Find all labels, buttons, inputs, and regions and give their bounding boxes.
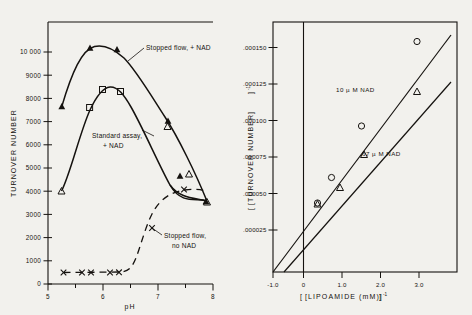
left-y-axis-title: TURNOVER NUMBER <box>10 109 17 197</box>
x-tick-label: 2.0 <box>376 281 385 288</box>
series-standard-assay-line <box>62 87 207 201</box>
x-tick-label: 8 <box>211 293 215 300</box>
y-tick-label: 0 <box>37 280 41 287</box>
left-y-tick-labels: 0 1000 2000 3000 4000 5000 6000 7000 800… <box>20 48 41 287</box>
leader-line-stopped-flow-nad <box>128 48 144 61</box>
annotation-10um-nad: 10 µ M NAD <box>336 86 375 93</box>
annotation-67um-nad: 67 µ M NAD <box>362 150 401 157</box>
data-point-marker <box>328 174 334 180</box>
x-tick-label: 6 <box>101 293 105 300</box>
y-tick-label: 4000 <box>26 188 41 195</box>
y-tick-label: 10 000 <box>20 48 41 55</box>
right-y-axis-exponent: -1 <box>246 85 251 90</box>
data-point-marker <box>414 38 420 44</box>
y-tick-label: 1000 <box>26 257 41 264</box>
series-stopped-flow-nad-markers <box>58 45 209 205</box>
left-x-ticks <box>48 284 213 291</box>
x-tick-label: 1.0 <box>337 281 346 288</box>
left-x-tick-labels: 5 6 7 8 <box>46 293 215 300</box>
data-point-marker <box>58 103 65 109</box>
right-y-axis-title: [ [TURNOVER NUMBER] ] -1 <box>246 85 256 210</box>
data-point-marker <box>177 173 184 179</box>
y-tick-label: 7000 <box>26 118 41 125</box>
series-67um-nad-line <box>284 82 451 272</box>
svg-text:]: ] <box>379 293 382 301</box>
annotation-stopped-flow-no-nad-line1: Stopped flow, <box>164 232 206 240</box>
right-plot-svg: .000025 .000050 .000075 .000100 .000125 … <box>236 0 472 315</box>
y-tick-label: 6000 <box>26 141 41 148</box>
data-point-marker <box>186 171 193 178</box>
svg-text:]: ] <box>247 91 255 94</box>
figure-container: 0 1000 2000 3000 4000 5000 6000 7000 800… <box>0 0 472 315</box>
chart-panel-right: .000025 .000050 .000075 .000100 .000125 … <box>236 0 472 315</box>
annotation-stopped-flow-no-nad-line2: no NAD <box>172 242 196 249</box>
x-tick-label: 3.0 <box>414 281 423 288</box>
data-point-marker <box>358 123 364 129</box>
series-stopped-flow-no-nad-markers <box>61 187 187 276</box>
x-tick-label: 7 <box>156 293 160 300</box>
right-x-axis-title-text: [LIPOAMIDE (mM)] <box>305 293 383 301</box>
series-stopped-flow-nad-line <box>62 46 207 200</box>
x-tick-label: 0 <box>302 281 306 288</box>
series-10um-nad-markers <box>314 38 420 206</box>
right-x-tick-labels: -1.0 0 1.0 2.0 3.0 <box>267 281 424 288</box>
svg-text:[: [ <box>247 207 255 210</box>
y-tick-label: 5000 <box>26 164 41 171</box>
series-standard-assay-markers <box>58 87 211 206</box>
right-x-ticks <box>273 272 419 278</box>
y-tick-label: 3000 <box>26 211 41 218</box>
data-point-marker <box>337 184 344 191</box>
right-x-axis-exponent: -1 <box>383 292 388 297</box>
annotation-standard-assay-line1: Standard assay, <box>92 132 142 140</box>
x-tick-label: 5 <box>46 293 50 300</box>
y-tick-label: 9000 <box>26 72 41 79</box>
right-y-axis-title-text: [TURNOVER NUMBER] <box>247 111 255 205</box>
y-tick-label: 2000 <box>26 234 41 241</box>
annotation-standard-assay-line2: + NAD <box>103 142 124 149</box>
x-tick-label: -1.0 <box>267 281 279 288</box>
y-tick-label: 8000 <box>26 95 41 102</box>
leader-line-stopped-flow-no-nad <box>152 228 162 235</box>
data-point-marker <box>114 46 121 52</box>
left-x-axis-title: pH <box>124 303 135 311</box>
annotation-stopped-flow-nad: Stopped flow, + NAD <box>146 44 211 52</box>
svg-text:[: [ <box>300 293 303 301</box>
chart-panel-left: 0 1000 2000 3000 4000 5000 6000 7000 800… <box>0 0 236 315</box>
series-stopped-flow-no-nad-line <box>64 189 208 272</box>
y-tick-label: .000150 <box>243 44 267 51</box>
y-tick-label: .000025 <box>243 226 267 233</box>
right-x-axis-title: [ [LIPOAMIDE (mM)] ] -1 <box>300 292 388 302</box>
data-point-marker <box>414 88 421 95</box>
left-plot-svg: 0 1000 2000 3000 4000 5000 6000 7000 800… <box>0 0 236 315</box>
